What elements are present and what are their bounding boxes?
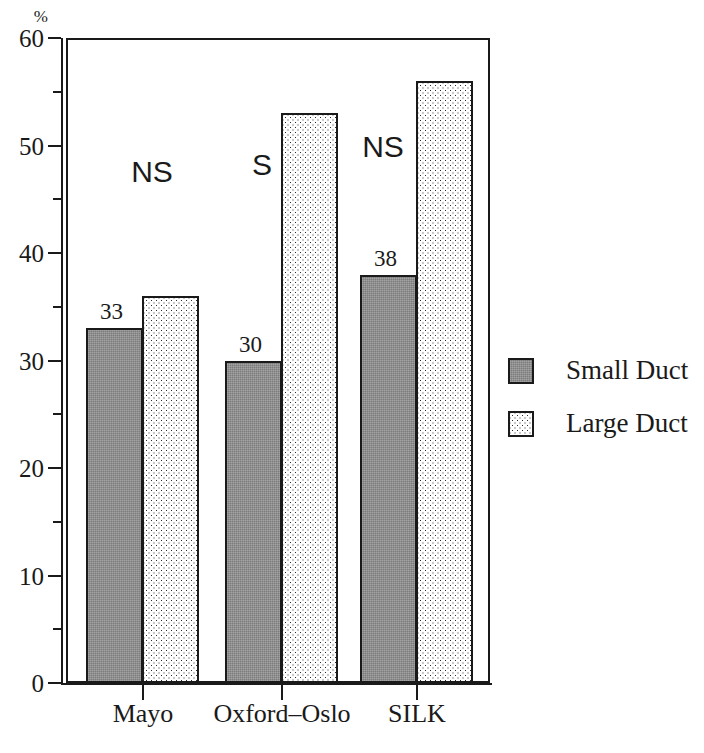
- x-axis-tick-label: SILK: [388, 700, 446, 729]
- bar-value-label: 38: [374, 247, 397, 270]
- y-axis-minor-tick: [53, 91, 61, 93]
- significance-label: NS: [362, 132, 404, 162]
- bar-large-duct: [142, 296, 199, 683]
- y-axis-major-tick: [48, 252, 61, 254]
- y-axis-major-tick: [48, 37, 61, 39]
- y-axis-minor-tick: [53, 306, 61, 308]
- y-axis-major-tick: [48, 575, 61, 577]
- bar-small-duct: [86, 328, 143, 683]
- y-axis-major-tick: [48, 145, 61, 147]
- y-axis-minor-tick: [53, 198, 61, 200]
- y-axis-unit-label: %: [0, 8, 48, 25]
- y-axis-tick-label: 10: [0, 564, 44, 589]
- y-axis-line: [61, 38, 63, 685]
- y-axis-minor-tick: [53, 628, 61, 630]
- x-axis-line: [61, 683, 492, 685]
- legend-item-small-duct: Small Duct: [508, 357, 688, 384]
- y-axis-minor-tick: [53, 521, 61, 523]
- legend-label-large-duct: Large Duct: [566, 410, 688, 437]
- legend-label-small-duct: Small Duct: [566, 357, 688, 384]
- x-axis-tick-label: Oxford–Oslo: [213, 700, 350, 729]
- legend-item-large-duct: Large Duct: [508, 410, 688, 437]
- y-axis-tick-label: 50: [0, 134, 44, 159]
- small-duct-swatch-icon: [508, 358, 534, 384]
- bar-small-duct: [225, 361, 282, 684]
- bar-large-duct: [281, 113, 338, 683]
- x-axis-tick-label: Mayo: [113, 700, 174, 729]
- y-axis-minor-tick: [53, 413, 61, 415]
- bar-chart: % 0102030405060 MayoOxford–OsloSILK 33NS…: [0, 0, 704, 753]
- y-axis-tick-label: 30: [0, 349, 44, 374]
- bar-small-duct: [360, 275, 417, 684]
- x-axis-tick: [142, 685, 144, 700]
- bar-large-duct: [416, 81, 473, 683]
- y-axis-tick-label: 40: [0, 241, 44, 266]
- x-axis-tick: [281, 685, 283, 700]
- significance-label: NS: [131, 157, 173, 187]
- y-axis-major-tick: [48, 360, 61, 362]
- y-axis-major-tick: [48, 467, 61, 469]
- y-axis-tick-label: 60: [0, 26, 44, 51]
- y-axis-tick-label: 0: [0, 671, 44, 696]
- bar-value-label: 30: [239, 333, 262, 356]
- y-axis-tick-label: 20: [0, 456, 44, 481]
- significance-label: S: [252, 150, 272, 180]
- y-axis-major-tick: [48, 682, 61, 684]
- x-axis-tick: [416, 685, 418, 700]
- large-duct-swatch-icon: [508, 411, 534, 437]
- bar-value-label: 33: [100, 300, 123, 323]
